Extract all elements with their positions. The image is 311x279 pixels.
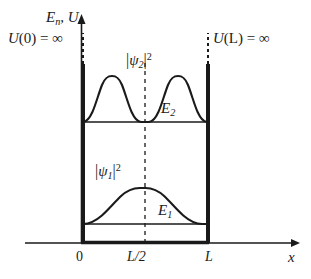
x-tick-label-well-width: L: [205, 250, 213, 264]
right-wall-potential-label: U(L) = ∞: [213, 31, 270, 46]
density-label-psi1: |ψ1|2: [95, 163, 121, 181]
energy-label-e1: E1: [158, 203, 172, 220]
infinite-square-well-diagram: En, U U(0) = ∞ U(L) = ∞ |ψ2|2 E2 |ψ1|2 E…: [0, 0, 311, 279]
x-tick-label-midpoint: L/2: [127, 250, 146, 264]
energy-label-e2: E2: [161, 101, 175, 118]
x-tick-label-origin: 0: [76, 250, 83, 264]
x-axis-arrowhead: [291, 239, 300, 247]
y-axis-label: En, U: [46, 10, 79, 27]
density-label-psi2: |ψ2|2: [126, 52, 152, 70]
left-wall-potential-label: U(0) = ∞: [8, 31, 63, 46]
x-axis-label: x: [288, 250, 295, 265]
